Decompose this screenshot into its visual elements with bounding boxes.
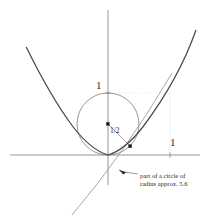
caption-leader-arrow-icon (119, 170, 127, 175)
circle-rim-dot (128, 144, 131, 147)
arc-caption-line-1: part of a circle of (140, 172, 188, 180)
y-axis-unit-label: 1 (96, 80, 102, 92)
small-circle-radius-label: 1/2 (110, 127, 120, 135)
large-circle-arc (72, 73, 172, 215)
caption-leader-line (124, 172, 138, 174)
parabola-osculating-circle-figure: 1 1 1/2 part of a circle of radius appro… (0, 0, 211, 221)
x-axis-unit-label: 1 (170, 137, 176, 149)
arc-caption: part of a circle of radius approx. 5.6 (140, 172, 188, 188)
arc-caption-line-2: radius approx. 5.6 (140, 180, 188, 188)
